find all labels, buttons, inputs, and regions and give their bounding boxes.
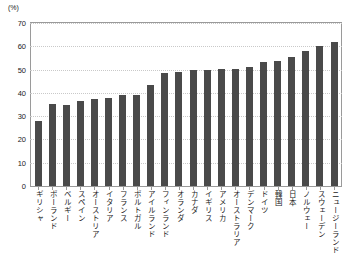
bar-slot [158, 23, 172, 186]
x-axis-label-slot: ベルギー [59, 190, 73, 264]
bar[interactable] [63, 105, 70, 187]
y-axis-tick-label: 70 [0, 19, 26, 28]
bar[interactable] [302, 51, 309, 186]
x-axis-label-slot: イギリス [200, 190, 214, 264]
bar[interactable] [91, 99, 98, 186]
bar-slot [285, 23, 299, 186]
x-axis-label: ベルギー [62, 190, 70, 264]
bar[interactable] [35, 121, 42, 186]
x-axis-label-slot: デンマーク [242, 190, 256, 264]
bar[interactable] [260, 62, 267, 186]
y-axis-tick-label: 0 [0, 182, 26, 191]
x-axis-label-slot: イタリア [101, 190, 115, 264]
x-axis-label-slot: ノルウェー [299, 190, 313, 264]
x-axis-label: イギリス [203, 190, 211, 264]
x-axis-label-slot: オーストリア [87, 190, 101, 264]
bar-slot [313, 23, 327, 186]
bar-slot [214, 23, 228, 186]
y-axis-unit-label: (%) [8, 4, 19, 11]
bar-slot [130, 23, 144, 186]
x-axis-label-slot: ポルトガル [130, 190, 144, 264]
y-axis-tick-label: 60 [0, 42, 26, 51]
bar[interactable] [49, 104, 56, 186]
x-axis-label-slot: ポーランド [45, 190, 59, 264]
bar-slot [242, 23, 256, 186]
x-axis-label: 韓国 [274, 190, 282, 264]
x-axis-label: アメリカ [217, 190, 225, 264]
bar-slot [116, 23, 130, 186]
x-axis-label: スウェーデン [316, 190, 324, 264]
x-axis-label: オランダ [175, 190, 183, 264]
x-axis-label: ノルウェー [302, 190, 310, 264]
x-axis-label: アイルランド [147, 190, 155, 264]
x-axis-label-slot: アメリカ [214, 190, 228, 264]
x-axis-label-slot: アイルランド [144, 190, 158, 264]
bar[interactable] [105, 98, 112, 186]
x-axis-label-slot: オランダ [172, 190, 186, 264]
bar[interactable] [218, 69, 225, 186]
bar[interactable] [147, 85, 154, 186]
bar-slot [73, 23, 87, 186]
bar[interactable] [246, 67, 253, 186]
bar-slot [327, 23, 341, 186]
bar-slot [186, 23, 200, 186]
x-axis-label: ポーランド [48, 190, 56, 264]
x-axis-label-slot: オーストラリア [228, 190, 242, 264]
bar[interactable] [190, 70, 197, 186]
bar-slot [144, 23, 158, 186]
bar-slot [59, 23, 73, 186]
bar[interactable] [288, 57, 295, 186]
bar-chart: (%) 010203040506070 ギリシャポーランドベルギースペインオース… [0, 0, 347, 266]
x-axis-label: フランス [119, 190, 127, 264]
x-axis-label: イタリア [104, 190, 112, 264]
gridline [30, 186, 342, 187]
x-axis-label: スペイン [76, 190, 84, 264]
bar[interactable] [274, 61, 281, 186]
x-axis-label: フィンランド [161, 190, 169, 264]
bar-slot [271, 23, 285, 186]
x-axis-label: ニュージーランド [330, 190, 338, 264]
y-axis-tick-label: 20 [0, 135, 26, 144]
x-axis-label-slot: フランス [116, 190, 130, 264]
y-axis-tick-label: 10 [0, 158, 26, 167]
bar[interactable] [232, 69, 239, 186]
x-axis-label-slot: フィンランド [158, 190, 172, 264]
bar[interactable] [204, 70, 211, 186]
y-axis-tick-label: 30 [0, 112, 26, 121]
y-axis-tick-label: 40 [0, 88, 26, 97]
x-axis-label-slot: ニュージーランド [327, 190, 341, 264]
bar[interactable] [316, 46, 323, 186]
bar[interactable] [175, 72, 182, 186]
x-axis-label-slot: カナダ [186, 190, 200, 264]
x-axis-label: ポルトガル [133, 190, 141, 264]
x-axis-label: オーストリア [90, 190, 98, 264]
x-axis-label: ギリシャ [34, 190, 42, 264]
x-axis-label-slot: ドイツ [257, 190, 271, 264]
x-axis-label: 日本 [288, 190, 296, 264]
bar-slot [31, 23, 45, 186]
bar[interactable] [119, 95, 126, 186]
x-axis-label: ドイツ [259, 190, 267, 264]
bar[interactable] [133, 95, 140, 186]
bar-slot [299, 23, 313, 186]
bar[interactable] [161, 73, 168, 186]
bar-slot [228, 23, 242, 186]
x-axis-label-slot: スウェーデン [313, 190, 327, 264]
bar-slot [257, 23, 271, 186]
x-axis-label-slot: 韓国 [271, 190, 285, 264]
bar-slot [101, 23, 115, 186]
y-axis-tick-label: 50 [0, 65, 26, 74]
x-axis-labels: ギリシャポーランドベルギースペインオーストリアイタリアフランスポルトガルアイルラ… [31, 190, 341, 264]
bar[interactable] [77, 101, 84, 186]
x-axis-label: カナダ [189, 190, 197, 264]
bar-slot [172, 23, 186, 186]
bar[interactable] [331, 42, 338, 186]
x-axis-label-slot: 日本 [285, 190, 299, 264]
x-axis-label-slot: ギリシャ [31, 190, 45, 264]
bar-slot [200, 23, 214, 186]
bar-slot [87, 23, 101, 186]
bar-series [31, 23, 341, 186]
bar-slot [45, 23, 59, 186]
x-axis-label: オーストラリア [231, 190, 239, 264]
x-axis-label-slot: スペイン [73, 190, 87, 264]
